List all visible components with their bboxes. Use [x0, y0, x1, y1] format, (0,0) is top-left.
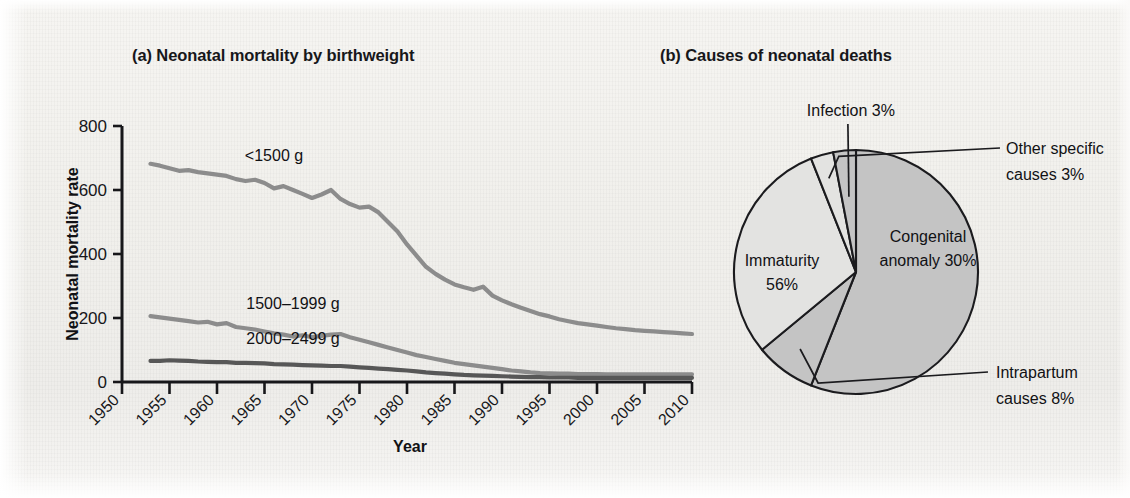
pie-label-intrapartum-2: causes 8%	[996, 390, 1074, 407]
pie-label-other-2: causes 3%	[1006, 166, 1084, 183]
pie-label-line1: Congenital	[890, 228, 967, 245]
pie-slices	[734, 150, 978, 394]
pie-label-line2: anomaly 30%	[880, 252, 977, 269]
pie-label-line1: Immaturity	[745, 252, 820, 269]
pie-label-infection: Infection 3%	[807, 102, 895, 119]
pie-label-intrapartum-1: Intrapartum	[996, 364, 1078, 381]
figure-root: (a) Neonatal mortality by birthweight 02…	[0, 0, 1130, 498]
pie-chart-panel: Immaturity56%Intrapartumcauses 8%Congeni…	[0, 0, 1130, 498]
pie-label-other-1: Other specific	[1006, 140, 1104, 157]
infection-leader-line	[848, 124, 849, 197]
pie-label-line2: 56%	[766, 276, 798, 293]
